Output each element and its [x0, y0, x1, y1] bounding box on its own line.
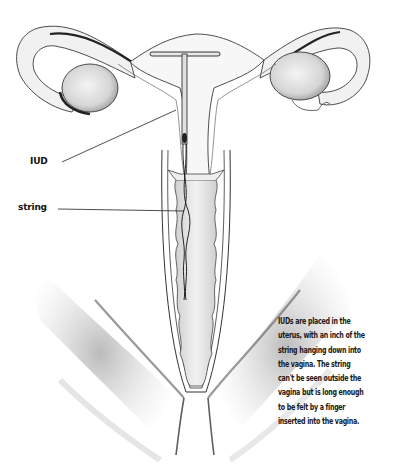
- vaginal-canal: [162, 150, 231, 392]
- caption-line: inserted into the vagina.: [278, 414, 392, 428]
- caption-line: vagina but is long enough: [278, 385, 392, 399]
- caption-line: the vagina. The string: [278, 357, 392, 371]
- caption: IUDs are placed in the uterus, with an i…: [278, 314, 392, 428]
- caption-line: string hanging down into: [278, 343, 392, 357]
- caption-line: can't be seen outside the: [278, 371, 392, 385]
- string-leader-line: [58, 209, 184, 211]
- caption-line: uterus, with an inch of the: [278, 328, 392, 342]
- iud-leader-line: [62, 110, 176, 162]
- caption-line: to be felt by a finger: [278, 400, 392, 414]
- caption-line: IUDs are placed in the: [278, 314, 392, 328]
- iud-label: IUD: [30, 156, 48, 166]
- string-label: string: [18, 202, 47, 212]
